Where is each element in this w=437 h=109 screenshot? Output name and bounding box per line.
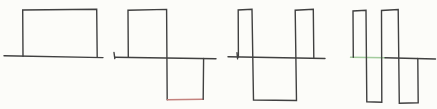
waveform-1-single-positive-pulse-baseline [4, 56, 103, 58]
waveform-2-positive-then-negative-pulse-baseline [115, 57, 216, 59]
waveform-2-positive-then-negative-pulse [114, 9, 216, 99]
waveform-svg [0, 0, 437, 109]
waveform-2-positive-then-negative-pulse-outline [128, 9, 167, 99]
waveform-3-positive-negative-positive-outline [238, 9, 314, 100]
waveform-1-single-positive-pulse-pulse-outline [23, 9, 98, 57]
waveform-4-two-cycle-square-wave-baseline-green [351, 57, 386, 58]
waveform-3-positive-negative-positive-start-tick [237, 53, 238, 59]
waveform-2-positive-then-negative-pulse-bottom-edge-red [167, 99, 203, 100]
waveform-4-two-cycle-square-wave-baseline [385, 58, 436, 59]
waveform-4-two-cycle-square-wave-outline [353, 10, 418, 104]
waveform-3-positive-negative-positive-baseline [228, 57, 325, 59]
waveform-diagram [0, 0, 437, 109]
waveform-1-single-positive-pulse [4, 9, 103, 57]
waveform-4-two-cycle-square-wave [351, 10, 436, 104]
waveform-3-positive-negative-positive [228, 9, 325, 100]
